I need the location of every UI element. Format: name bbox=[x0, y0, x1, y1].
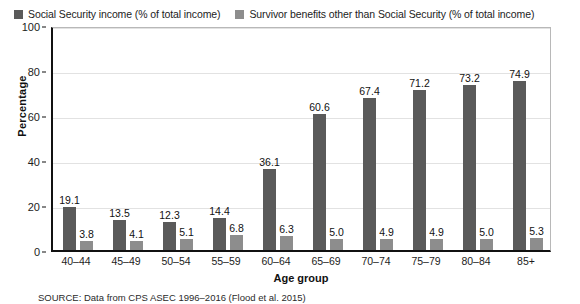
bar-group: 12.35.1 bbox=[153, 28, 203, 250]
bar-value-label: 14.4 bbox=[209, 205, 229, 217]
bar-social-security: 67.4 bbox=[363, 98, 376, 250]
x-tick-label: 45–49 bbox=[111, 255, 140, 267]
bar-value-label: 4.9 bbox=[379, 226, 394, 238]
bar-survivor-benefits: 6.3 bbox=[280, 236, 293, 250]
bar-survivor-benefits: 3.8 bbox=[80, 241, 93, 250]
bar-survivor-benefits: 4.1 bbox=[130, 241, 143, 250]
bar-value-label: 6.3 bbox=[279, 223, 294, 235]
bar-value-label: 13.5 bbox=[109, 207, 129, 219]
bar-group: 60.65.0 bbox=[303, 28, 353, 250]
bar-social-security: 19.1 bbox=[63, 207, 76, 250]
bar-value-label: 67.4 bbox=[359, 85, 379, 97]
bar-value-label: 5.3 bbox=[529, 225, 544, 237]
bar-social-security: 14.4 bbox=[213, 218, 226, 250]
y-tick-label: 100 bbox=[22, 21, 40, 33]
bar-value-label: 5.1 bbox=[179, 226, 194, 238]
x-axis: 40–4445–4950–5455–5960–6465–6970–7475–79… bbox=[51, 255, 551, 271]
bar-group: 19.13.8 bbox=[53, 28, 103, 250]
bar-group: 14.46.8 bbox=[203, 28, 253, 250]
legend-swatch-survivor-benefits bbox=[235, 10, 244, 19]
y-tick-label: 80 bbox=[28, 66, 40, 78]
bar-social-security: 71.2 bbox=[413, 90, 426, 250]
bar-value-label: 19.1 bbox=[59, 194, 79, 206]
bar-survivor-benefits: 5.0 bbox=[330, 239, 343, 250]
bar-social-security: 60.6 bbox=[313, 114, 326, 250]
source-note: SOURCE: Data from CPS ASEC 1996–2016 (Fl… bbox=[38, 292, 306, 303]
bar-value-label: 6.8 bbox=[229, 222, 244, 234]
bar-social-security: 12.3 bbox=[163, 222, 176, 250]
legend-swatch-social-security bbox=[14, 10, 23, 19]
bar-value-label: 3.8 bbox=[79, 228, 94, 240]
bar-group: 13.54.1 bbox=[103, 28, 153, 250]
x-tick-label: 80–84 bbox=[461, 255, 490, 267]
bar-value-label: 5.0 bbox=[479, 226, 494, 238]
bar-value-label: 74.9 bbox=[509, 68, 529, 80]
bar-social-security: 74.9 bbox=[513, 81, 526, 250]
x-tick-label: 70–74 bbox=[361, 255, 390, 267]
bar-value-label: 4.9 bbox=[429, 226, 444, 238]
x-tick-label: 75–79 bbox=[411, 255, 440, 267]
bar-value-label: 4.1 bbox=[129, 228, 144, 240]
legend-label-social-security: Social Security income (% of total incom… bbox=[28, 8, 220, 20]
bar-social-security: 73.2 bbox=[463, 85, 476, 250]
bar-survivor-benefits: 5.3 bbox=[530, 238, 543, 250]
bar-survivor-benefits: 5.0 bbox=[480, 239, 493, 250]
bar-value-label: 12.3 bbox=[159, 209, 179, 221]
x-tick-label: 55–59 bbox=[211, 255, 240, 267]
x-tick-label: 60–64 bbox=[261, 255, 290, 267]
y-tick-mark bbox=[42, 27, 46, 28]
y-axis-title: Percentage bbox=[16, 46, 28, 166]
bars-layer: 19.13.813.54.112.35.114.46.836.16.360.65… bbox=[53, 28, 550, 250]
bar-survivor-benefits: 4.9 bbox=[380, 239, 393, 250]
bar-social-security: 36.1 bbox=[263, 169, 276, 250]
bar-value-label: 71.2 bbox=[409, 77, 429, 89]
legend-item-social-security: Social Security income (% of total incom… bbox=[14, 8, 220, 20]
bar-group: 36.16.3 bbox=[253, 28, 303, 250]
bar-survivor-benefits: 6.8 bbox=[230, 235, 243, 250]
y-tick-label: 0 bbox=[34, 246, 40, 258]
chart-legend: Social Security income (% of total incom… bbox=[14, 6, 574, 22]
bar-group: 73.25.0 bbox=[453, 28, 503, 250]
legend-item-survivor-benefits: Survivor benefits other than Social Secu… bbox=[235, 8, 534, 20]
y-tick-mark bbox=[42, 252, 46, 253]
x-tick-label: 65–69 bbox=[311, 255, 340, 267]
y-tick-label: 20 bbox=[28, 201, 40, 213]
x-tick-label: 40–44 bbox=[61, 255, 90, 267]
y-tick-label: 40 bbox=[28, 156, 40, 168]
x-tick-label: 50–54 bbox=[161, 255, 190, 267]
legend-label-survivor-benefits: Survivor benefits other than Social Secu… bbox=[249, 8, 534, 20]
plot-area: 19.13.813.54.112.35.114.46.836.16.360.65… bbox=[51, 27, 551, 252]
x-axis-title: Age group bbox=[51, 272, 551, 284]
x-tick-label: 85+ bbox=[517, 255, 535, 267]
bar-group: 74.95.3 bbox=[503, 28, 553, 250]
bar-value-label: 60.6 bbox=[309, 101, 329, 113]
bar-survivor-benefits: 4.9 bbox=[430, 239, 443, 250]
bar-group: 67.44.9 bbox=[353, 28, 403, 250]
bar-value-label: 73.2 bbox=[459, 72, 479, 84]
y-tick-mark bbox=[42, 72, 46, 73]
bar-survivor-benefits: 5.1 bbox=[180, 239, 193, 250]
y-tick-mark bbox=[42, 162, 46, 163]
y-tick-mark bbox=[42, 117, 46, 118]
bar-value-label: 36.1 bbox=[259, 156, 279, 168]
y-tick-mark bbox=[42, 207, 46, 208]
bar-social-security: 13.5 bbox=[113, 220, 126, 250]
bar-value-label: 5.0 bbox=[329, 226, 344, 238]
bar-group: 71.24.9 bbox=[403, 28, 453, 250]
y-tick-label: 60 bbox=[28, 111, 40, 123]
